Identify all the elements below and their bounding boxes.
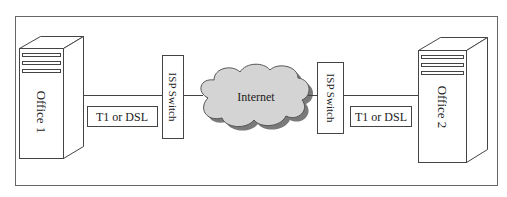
office2-server-side bbox=[467, 38, 488, 163]
isp-switch-2-label: ISP Switch bbox=[325, 74, 337, 123]
office1-server-side bbox=[64, 37, 84, 159]
drive-bay-icon bbox=[23, 54, 61, 57]
drive-bay-icon bbox=[422, 64, 464, 67]
drive-bay-icon bbox=[422, 56, 464, 59]
link-label-right: T1 or DSL bbox=[355, 110, 407, 124]
office2-label: Office 2 bbox=[435, 86, 450, 129]
drive-bay-icon bbox=[23, 62, 61, 65]
internet-label: Internet bbox=[237, 90, 275, 104]
office1-server: Office 1 bbox=[20, 37, 84, 159]
internet-cloud: Internet bbox=[201, 64, 313, 130]
link-label-left: T1 or DSL bbox=[96, 110, 148, 124]
drive-bay-icon bbox=[23, 70, 61, 73]
network-diagram: Office 1 T1 or DSL ISP Switch Internet I… bbox=[0, 0, 507, 197]
office1-label: Office 1 bbox=[34, 91, 49, 134]
drive-bay-icon bbox=[422, 72, 464, 75]
office2-server: Office 2 bbox=[419, 38, 488, 163]
isp-switch-1-label: ISP Switch bbox=[167, 73, 179, 122]
